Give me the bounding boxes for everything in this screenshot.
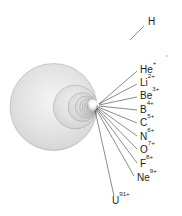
leader-line-n6plus [98, 108, 137, 136]
ion-symbol: Ne [137, 172, 150, 183]
ion-charge: 8+ [146, 153, 153, 160]
leader-line-ne9plus [96, 109, 134, 176]
ion-size-diagram: HHe+Li2+Be3+B4+C5+N6+O7+F8+Ne9+U91+ [0, 0, 182, 216]
scan-speck-artifact [166, 55, 168, 57]
nucleus-highlight [88, 99, 97, 108]
ion-charge: 9+ [150, 167, 157, 174]
leader-line-b4plus [99, 106, 137, 110]
leader-line-o7plus [97, 108, 137, 149]
leader-line-u91plus [95, 110, 114, 196]
nucleus-core [88, 99, 97, 108]
ion-charge: 6+ [147, 126, 154, 133]
leader-lines-group [95, 26, 144, 196]
ion-symbol: U [112, 195, 119, 206]
ion-charge: 5+ [147, 112, 154, 119]
leader-line-heplus [99, 71, 137, 104]
ion-charge: 7+ [148, 139, 155, 146]
ion-symbol: N [140, 131, 147, 142]
ion-charge: + [153, 59, 157, 66]
ion-symbol: C [140, 117, 147, 128]
ion-charge: 91+ [119, 190, 130, 197]
ion-charge: 3+ [152, 85, 159, 92]
ion-charge: 4+ [147, 99, 154, 106]
ion-label-u91plus: U91+ [112, 190, 130, 206]
ion-labels-group: HHe+Li2+Be3+B4+C5+N6+O7+F8+Ne9+U91+ [112, 16, 160, 206]
ion-label-ne9plus: Ne9+ [137, 167, 157, 183]
ion-charge: 2+ [148, 72, 155, 79]
leader-line-h [130, 26, 144, 40]
leader-line-f8plus [97, 109, 137, 163]
diagram-canvas: HHe+Li2+Be3+B4+C5+N6+O7+F8+Ne9+U91+ [0, 0, 182, 216]
ion-symbol: Li [140, 77, 148, 88]
ion-label-h: H [148, 16, 155, 27]
ion-symbol: H [148, 16, 155, 27]
nested-spheres-group [10, 64, 97, 151]
